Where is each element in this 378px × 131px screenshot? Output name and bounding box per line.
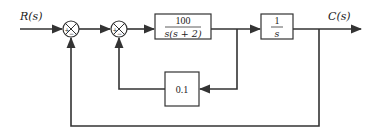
plant-numerator: 100	[176, 15, 191, 26]
feedback-gain-block: 0.1	[165, 72, 199, 106]
summing-junction-2: + −	[111, 21, 127, 37]
integrator-denominator: s	[275, 28, 280, 39]
plant-block: 100 s(s + 2)	[155, 14, 211, 39]
summing-junction-1: + −	[63, 21, 79, 37]
feedback-gain-value: 0.1	[176, 84, 189, 95]
inner-feedback-return	[119, 38, 165, 89]
integrator-block: 1 s	[261, 14, 293, 39]
input-label: R(s)	[19, 10, 43, 23]
sum1-minus-sign: −	[69, 30, 74, 37]
block-diagram: R(s) + − + − 100 s(s + 2) 1 s C(s)	[0, 0, 378, 131]
output-label: C(s)	[328, 10, 351, 23]
sum2-minus-sign: −	[117, 30, 122, 37]
integrator-numerator: 1	[275, 15, 280, 26]
plant-denominator: s(s + 2)	[164, 28, 202, 39]
